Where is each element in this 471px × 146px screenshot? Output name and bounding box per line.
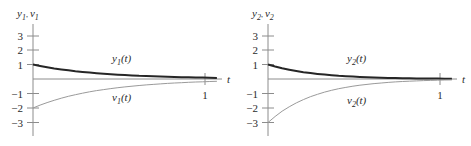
y-ticklabel-2: 2 <box>253 44 259 56</box>
y-ticklabel-neg3: −3 <box>246 117 258 129</box>
two-panel-plot-figure: 3 2 1 −1 −2 −3 1 y1, v1 t y1(t) v1(t) <box>0 0 471 146</box>
y-ticklabel-3: 3 <box>253 30 259 42</box>
series-curve-y1 <box>33 65 217 78</box>
y-ticklabel-3: 3 <box>18 30 24 42</box>
plot-svg-left: 3 2 1 −1 −2 −3 1 y1, v1 t y1(t) v1(t) <box>0 0 236 146</box>
svg-text:y1, v1: y1, v1 <box>16 7 39 22</box>
y-axis-title-left: y1, v1 <box>16 7 39 22</box>
x-axis-title-left: t <box>227 73 231 85</box>
x-ticklabel-1: 1 <box>437 89 443 101</box>
series-label-y1: y1(t) <box>111 52 132 67</box>
series-label-y2: y2(t) <box>346 52 367 67</box>
series-label-v2: v2(t) <box>347 94 367 109</box>
y-ticklabel-2: 2 <box>18 44 24 56</box>
x-axis-title-right: t <box>462 73 466 85</box>
y-ticklabel-1: 1 <box>18 59 24 71</box>
y-ticklabel-neg1: −1 <box>11 88 23 100</box>
y-ticklabel-neg3: −3 <box>11 117 23 129</box>
y-ticklabel-neg1: −1 <box>246 88 258 100</box>
series-curve-y2 <box>268 65 452 79</box>
y-axis-title-second-sub: 1 <box>35 13 39 22</box>
axes-left <box>33 24 222 136</box>
y-axis-title-second-sub: 2 <box>270 13 274 22</box>
plot-panel-right: 3 2 1 −1 −2 −3 1 y2, v2 t y2(t) v2(t) <box>235 0 471 146</box>
y-ticklabel-1: 1 <box>253 59 259 71</box>
y-axis-title-right: y2, v2 <box>251 7 274 22</box>
series-label-v1: v1(t) <box>112 91 132 106</box>
plot-svg-right: 3 2 1 −1 −2 −3 1 y2, v2 t y2(t) v2(t) <box>235 0 471 146</box>
svg-text:y2, v2: y2, v2 <box>251 7 274 22</box>
plot-panel-left: 3 2 1 −1 −2 −3 1 y1, v1 t y1(t) v1(t) <box>0 0 236 146</box>
x-ticklabel-1: 1 <box>202 89 208 101</box>
y-ticklabel-neg2: −2 <box>246 102 258 114</box>
y-ticklabel-neg2: −2 <box>11 102 23 114</box>
